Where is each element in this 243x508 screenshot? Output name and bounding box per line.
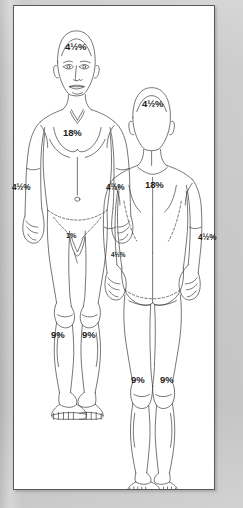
label-front-hand-right: 4½% xyxy=(111,252,125,258)
body-figures-illustration xyxy=(14,6,214,489)
illustration-panel: 4½% 18% 4½% 4½% 4½% 1% 9% 9% 4½% 18% 4½%… xyxy=(13,5,215,490)
label-front-leg-left: 9% xyxy=(51,330,65,340)
diagram-page: 4½% 18% 4½% 4½% 4½% 1% 9% 9% 4½% 18% 4½%… xyxy=(0,0,243,508)
label-back-head: 4½% xyxy=(142,99,163,109)
anterior-figure-outline xyxy=(23,31,133,419)
label-front-torso: 18% xyxy=(63,128,82,138)
label-back-leg-left: 9% xyxy=(131,375,145,385)
posterior-figure-outline xyxy=(103,88,202,489)
label-back-torso: 18% xyxy=(145,180,164,190)
label-back-arm-right: 4½% xyxy=(198,234,216,242)
label-back-leg-right: 9% xyxy=(160,375,174,385)
label-front-leg-right: 9% xyxy=(82,330,96,340)
label-front-groin: 1% xyxy=(66,232,76,239)
label-front-arm-right: 4½% xyxy=(106,184,124,192)
label-front-head: 4½% xyxy=(65,42,86,52)
label-front-arm-left: 4½% xyxy=(12,184,30,192)
